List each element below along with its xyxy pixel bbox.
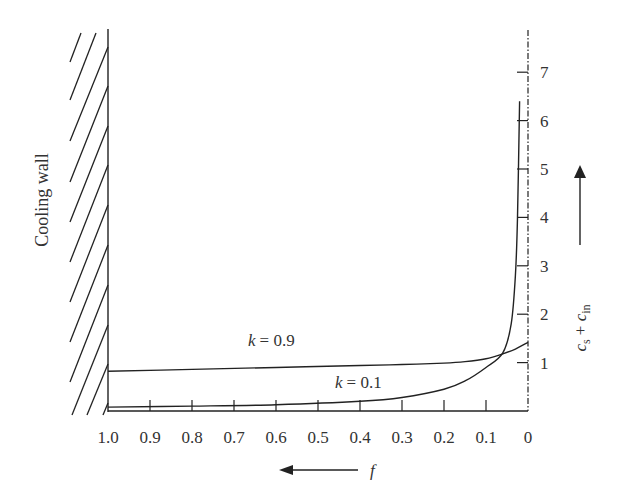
y-axis-tick-labels: 1234567 [540,63,549,372]
y-tick-label: 5 [540,160,549,179]
x-tick-label: 0.9 [139,428,160,447]
arrow-left-icon [279,465,293,475]
x-tick-label: 0.6 [265,428,286,447]
y-tick-label: 2 [540,305,549,324]
y-axis-label: cs + cin [571,304,593,351]
y-tick-label: 6 [540,112,549,131]
x-tick-label: 0.1 [475,428,496,447]
y-tick-label: 7 [540,63,549,82]
x-tick-label: 0.8 [181,428,202,447]
y-axis-ticks [517,72,528,362]
arrow-up-icon [574,165,586,178]
x-tick-label: 0.3 [391,428,412,447]
x-tick-label: 0.4 [349,428,371,447]
y-tick-label: 4 [540,208,549,227]
cooling-wall-hatch [70,33,108,415]
y-tick-label: 1 [540,354,549,373]
chart-canvas: Cooling wall 1.00.90.80.70.60.50.40.30.2… [0,0,627,497]
y-tick-label: 3 [540,257,549,276]
x-axis-tick-labels: 1.00.90.80.70.60.50.40.30.20.10 [97,428,532,447]
x-axis-label-group: f [279,461,377,480]
x-tick-label: 1.0 [97,428,118,447]
label-k-0.1: k= 0.1 [335,373,382,392]
cooling-wall-label: Cooling wall [32,153,52,247]
x-axis-label: f [370,461,377,480]
x-tick-label: 0.7 [223,428,245,447]
curve-k-0.9 [108,342,528,371]
x-tick-label: 0 [524,428,533,447]
label-k-0.9: k= 0.9 [248,331,295,350]
y-axis-label-group: cs + cin [571,165,593,352]
x-tick-label: 0.5 [307,428,328,447]
curve-k-0.1 [108,101,520,407]
x-tick-label: 0.2 [433,428,454,447]
